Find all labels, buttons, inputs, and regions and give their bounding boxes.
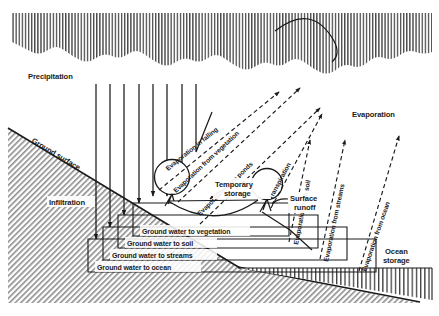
label-infiltration: Infiltration — [49, 198, 85, 207]
label-ground-water-to-streams: Ground water to streams — [112, 252, 193, 259]
label-precipitation: Precipitation — [28, 72, 73, 81]
label-surface-runoff-line2: runoff — [294, 203, 316, 212]
hydrologic-cycle-figure: Precipitation Ground surface Infiltratio… — [0, 0, 439, 316]
label-temporary-storage-line2: storage — [224, 189, 251, 198]
label-ocean-storage-line2: storage — [383, 256, 410, 265]
label-ground-water-to-soil: Ground water to soil — [127, 240, 193, 247]
label-evaporation-in-falling: Evaporation in falling — [164, 125, 219, 172]
label-ocean-storage-line1: Ocean — [385, 247, 408, 256]
label-ground-water-to-ocean: Ground water to ocean — [97, 264, 171, 271]
diagram-canvas: Precipitation Ground surface Infiltratio… — [0, 0, 439, 316]
label-surface-runoff-line1: Surface — [290, 194, 317, 203]
label-evaporation: Evaporation — [352, 110, 395, 119]
label-ground-water-to-vegetation: Ground water to vegetation — [142, 228, 230, 236]
cloud-band — [12, 12, 433, 74]
surface-runoff-stream — [262, 212, 312, 250]
label-temporary-storage-line1: Temporary — [215, 180, 254, 189]
